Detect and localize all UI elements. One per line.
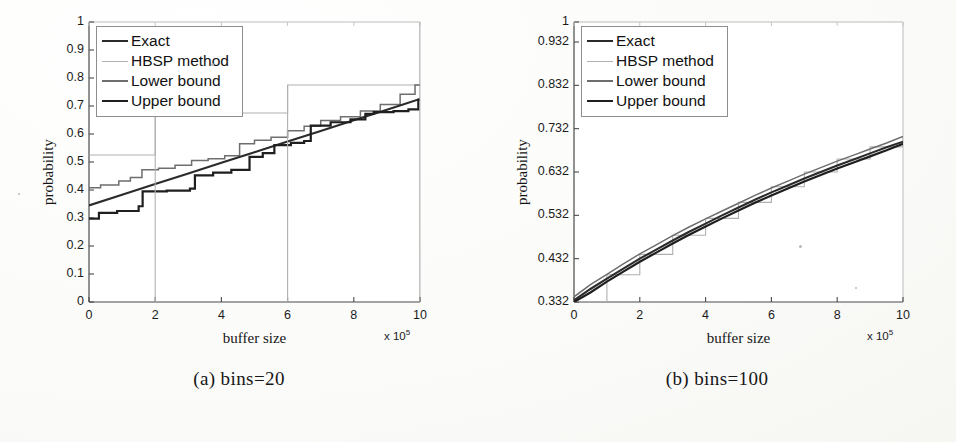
legend-item-exact[interactable]: Exact — [587, 31, 720, 51]
x-axis-exponent-a: x 105 — [384, 328, 410, 342]
legend-label-lower_bound: Lower bound — [131, 73, 221, 89]
x-tick-label: 4 — [201, 308, 241, 322]
x-tick-label: 0 — [554, 308, 594, 322]
x-axis-title-a: buffer size — [89, 330, 420, 347]
legend-item-lower_bound[interactable]: Lower bound — [102, 71, 235, 91]
y-tick-label: 0.732 — [509, 121, 569, 135]
legend-b: ExactHBSP methodLower boundUpper bound — [581, 26, 728, 117]
y-tick-label: 0.7 — [24, 98, 84, 112]
legend-item-upper_bound[interactable]: Upper bound — [102, 91, 235, 111]
y-tick-label: 0.6 — [24, 126, 84, 140]
legend-swatch-lower_bound-icon — [587, 80, 613, 82]
y-tick-label: 0.8 — [24, 70, 84, 84]
x-tick-label: 6 — [751, 308, 791, 322]
scan-speck — [18, 193, 20, 195]
legend-a: ExactHBSP methodLower boundUpper bound — [96, 26, 243, 117]
legend-swatch-exact-icon — [587, 40, 613, 42]
y-tick-label: 0.1 — [24, 266, 84, 280]
y-tick-label: 0.832 — [509, 77, 569, 91]
legend-swatch-upper_bound-icon — [587, 100, 613, 102]
scan-speck — [799, 245, 802, 248]
legend-label-hbsp: HBSP method — [131, 53, 229, 69]
figure-root: ExactHBSP methodLower boundUpper bound b… — [0, 0, 956, 442]
y-tick-label: 0.4 — [24, 182, 84, 196]
x-tick-label: 2 — [135, 308, 175, 322]
caption-a: (a) bins=20 — [0, 368, 478, 390]
x-tick-label: 10 — [883, 308, 923, 322]
subfigure-b: ExactHBSP methodLower boundUpper bound b… — [478, 0, 956, 442]
legend-label-lower_bound: Lower bound — [616, 73, 706, 89]
subfigure-a: ExactHBSP methodLower boundUpper bound b… — [0, 0, 478, 442]
legend-item-hbsp[interactable]: HBSP method — [587, 51, 720, 71]
y-tick-label: 1 — [24, 14, 84, 28]
y-tick-label: 0.632 — [509, 164, 569, 178]
legend-item-lower_bound[interactable]: Lower bound — [587, 71, 720, 91]
x-exponent-power: 5 — [889, 328, 893, 337]
x-exponent-power: 5 — [406, 328, 410, 337]
legend-item-exact[interactable]: Exact — [102, 31, 235, 51]
scan-speck — [855, 287, 857, 289]
x-tick-label: 4 — [686, 308, 726, 322]
x-exponent-base: x 10 — [384, 330, 406, 342]
x-tick-label: 2 — [620, 308, 660, 322]
legend-label-exact: Exact — [131, 33, 170, 49]
y-tick-label: 1 — [509, 14, 569, 28]
x-axis-exponent-b: x 105 — [867, 328, 893, 342]
x-tick-label: 10 — [400, 308, 440, 322]
y-tick-label: 0 — [24, 294, 84, 308]
x-axis-title-b: buffer size — [574, 330, 903, 347]
legend-label-upper_bound: Upper bound — [131, 93, 221, 109]
x-tick-label: 8 — [817, 308, 857, 322]
y-tick-label: 0.9 — [24, 42, 84, 56]
x-exponent-base: x 10 — [867, 330, 889, 342]
x-tick-label: 8 — [334, 308, 374, 322]
y-tick-label: 0.2 — [24, 238, 84, 252]
y-tick-label: 0.432 — [509, 251, 569, 265]
x-tick-label: 0 — [69, 308, 109, 322]
y-tick-label: 0.532 — [509, 207, 569, 221]
y-tick-label: 0.5 — [24, 154, 84, 168]
x-tick-label: 6 — [268, 308, 308, 322]
legend-item-hbsp[interactable]: HBSP method — [102, 51, 235, 71]
y-tick-label: 0.3 — [24, 210, 84, 224]
legend-label-exact: Exact — [616, 33, 655, 49]
caption-b: (b) bins=100 — [478, 368, 956, 390]
legend-label-hbsp: HBSP method — [616, 53, 714, 69]
legend-swatch-exact-icon — [102, 40, 128, 42]
legend-swatch-lower_bound-icon — [102, 80, 128, 82]
y-tick-label: 0.332 — [509, 294, 569, 308]
legend-item-upper_bound[interactable]: Upper bound — [587, 91, 720, 111]
y-tick-label: 0.932 — [509, 34, 569, 48]
scan-speck — [211, 63, 214, 66]
legend-label-upper_bound: Upper bound — [616, 93, 706, 109]
legend-swatch-hbsp-icon — [587, 61, 613, 62]
legend-swatch-upper_bound-icon — [102, 100, 128, 102]
legend-swatch-hbsp-icon — [102, 61, 128, 62]
